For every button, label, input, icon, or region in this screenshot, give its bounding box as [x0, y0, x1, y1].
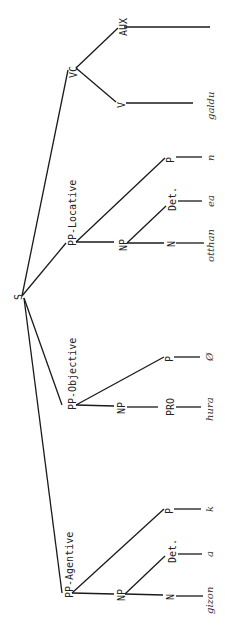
node-pp-locative-n: N: [166, 241, 177, 247]
edge-pploc-p: [76, 158, 165, 242]
node-pp-objective-np: NP: [116, 402, 127, 414]
edge-ppagt-p: [72, 509, 164, 593]
node-pp-agentive: PP-Agentive: [64, 532, 75, 598]
edge-vc-aux: [76, 28, 118, 68]
node-pp-agentive-np: NP: [116, 589, 127, 601]
edge-s-pp-locative: [22, 243, 66, 296]
node-pp-objective-p: P: [164, 356, 175, 362]
edge-s-vc: [22, 70, 68, 296]
tree-edges: [22, 27, 210, 596]
node-v: V: [116, 102, 127, 108]
terminal-ea: ea: [205, 195, 216, 207]
terminal-hura: hura: [204, 397, 215, 421]
edge-ppobj-p: [76, 357, 164, 405]
node-pp-locative-p: P: [165, 157, 176, 163]
node-pp-locative-np: NP: [118, 239, 129, 251]
edge-s-pp-objective: [24, 298, 62, 405]
edge-vc-v: [76, 68, 116, 102]
edge-pploc-np-det: [127, 206, 166, 243]
node-pp-objective-pro: PRO: [165, 398, 176, 416]
node-pp-locative-det: Det.: [167, 187, 178, 211]
syntax-tree-diagram: S VC AUX V galdu PP-Locative NP N Det. P…: [0, 0, 225, 632]
terminal-n: n: [205, 155, 216, 161]
edge-ppagt-np: [72, 593, 114, 594]
node-pp-agentive-det: Det.: [167, 539, 178, 563]
edge-ppobj-np: [76, 405, 114, 406]
node-pp-locative: PP-Locative: [67, 180, 78, 246]
terminal-null: Ø: [204, 352, 215, 362]
edge-ppagt-np-det: [125, 556, 165, 594]
node-s: S: [13, 294, 24, 300]
edge-ppagt-np-n: [125, 594, 163, 595]
edge-s-pp-agentive: [24, 298, 62, 593]
tree-nodes: S VC AUX V galdu PP-Locative NP N Det. P…: [13, 18, 216, 614]
node-aux: AUX: [118, 18, 129, 36]
terminal-otthan: otthan: [205, 229, 216, 262]
terminal-galdu: galdu: [205, 92, 216, 120]
terminal-k: k: [204, 506, 215, 512]
terminal-a: a: [204, 551, 215, 557]
node-pp-agentive-n: N: [165, 594, 176, 600]
node-pp-objective: PP-Objective: [67, 338, 78, 410]
node-vc: VC: [68, 66, 79, 78]
terminal-gizon: gizon: [204, 587, 215, 614]
node-pp-agentive-p: P: [164, 508, 175, 514]
